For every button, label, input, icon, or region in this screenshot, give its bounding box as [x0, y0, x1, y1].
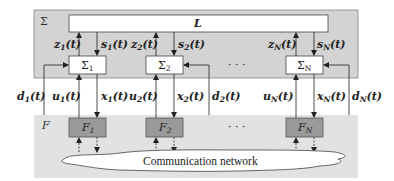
plant-panel-label: Σ	[40, 15, 48, 28]
svg-text:d2(t): d2(t)	[212, 90, 240, 104]
svg-text:xN(t): xN(t)	[316, 90, 346, 104]
svg-text:s1(t): s1(t)	[101, 38, 128, 52]
svg-text:s2(t): s2(t)	[178, 38, 205, 52]
svg-text:z2(t): z2(t)	[130, 38, 158, 52]
network-label: Communication network	[143, 155, 258, 167]
svg-text:z1(t): z1(t)	[53, 38, 81, 52]
svg-text:uN(t): uN(t)	[263, 90, 293, 104]
svg-text:dN(t): dN(t)	[352, 90, 382, 104]
svg-text:zN(t): zN(t)	[267, 38, 297, 52]
coupling-block-label: L	[193, 17, 202, 30]
ellipsis-controller: · · ·	[228, 121, 245, 134]
svg-text:x2(t): x2(t)	[176, 90, 204, 104]
svg-text:u2(t): u2(t)	[129, 90, 158, 104]
svg-text:sN(t): sN(t)	[317, 38, 346, 52]
svg-text:d1(t): d1(t)	[17, 90, 45, 104]
controller-panel-label: F	[41, 119, 50, 132]
distributed-control-diagram: Σ L F Σ1 z1(t) s1(t) d1(t) u1(t) x1(t) F…	[0, 0, 394, 181]
svg-text:x1(t): x1(t)	[100, 90, 128, 104]
svg-text:u1(t): u1(t)	[52, 90, 81, 104]
ellipsis-plant: · · ·	[228, 59, 245, 72]
